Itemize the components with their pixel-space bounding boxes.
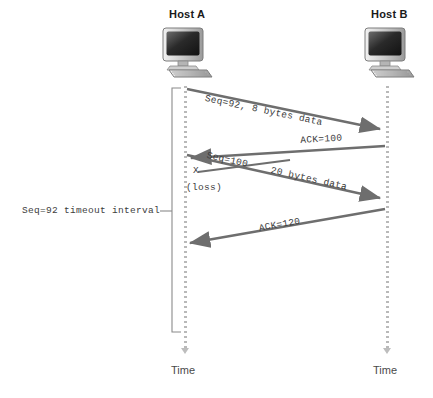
loss-text-label: (loss): [186, 182, 222, 193]
timeout-bracket: [160, 88, 181, 332]
tcp-sequence-diagram: Host A Host B: [0, 0, 433, 398]
arrows-layer: [0, 0, 433, 398]
timeout-interval-label: Seq=92 timeout interval: [22, 205, 160, 216]
loss-marker: X: [193, 165, 199, 176]
